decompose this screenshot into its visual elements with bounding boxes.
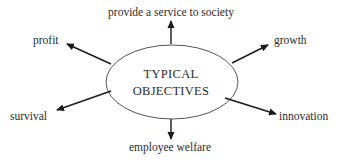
objective-profit: profit xyxy=(33,34,59,47)
objective-service-to-society: provide a service to society xyxy=(108,6,234,19)
objective-employee-welfare: employee welfare xyxy=(129,141,211,154)
arrow-bottom-right xyxy=(225,98,276,114)
arrow-bottom-left xyxy=(57,91,111,110)
center-ellipse xyxy=(106,45,238,119)
arrow-top-left xyxy=(67,44,111,64)
center-node: TYPICAL OBJECTIVES xyxy=(106,45,238,119)
objective-growth: growth xyxy=(274,34,307,47)
center-label-line2: OBJECTIVES xyxy=(133,84,210,98)
objective-innovation: innovation xyxy=(279,110,328,122)
objective-survival: survival xyxy=(10,110,47,122)
center-label-line1: TYPICAL xyxy=(144,67,199,81)
objectives-diagram: TYPICAL OBJECTIVES provide a service to … xyxy=(0,0,343,163)
arrow-top-right xyxy=(232,45,268,63)
